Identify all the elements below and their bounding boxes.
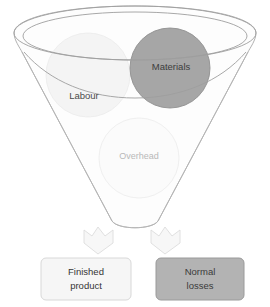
overhead-label: Overhead	[119, 151, 159, 161]
finished-product-line2: product	[70, 280, 102, 291]
labour-label: Labour	[69, 90, 99, 101]
funnel-diagram: Labour Materials Overhead Finished produ…	[0, 0, 270, 307]
normal-losses-line1: Normal	[185, 266, 216, 277]
labour-circle	[46, 33, 130, 117]
normal-losses-box[interactable]: Normal losses	[156, 258, 244, 300]
diagram-canvas: Labour Materials Overhead Finished produ…	[0, 0, 270, 307]
finished-product-box[interactable]: Finished product	[41, 258, 131, 300]
finished-product-line1: Finished	[68, 266, 104, 277]
arrow-left-down-icon	[84, 227, 113, 254]
materials-label: Materials	[152, 61, 191, 72]
arrow-right-down-icon	[151, 227, 180, 254]
normal-losses-line2: losses	[187, 280, 214, 291]
output-arrows	[84, 227, 180, 254]
